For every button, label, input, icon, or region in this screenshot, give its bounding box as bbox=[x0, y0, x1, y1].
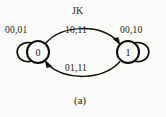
state-node-1[interactable]: 1 bbox=[117, 41, 139, 63]
transition-label-1-to-0: 01,11 bbox=[65, 64, 87, 74]
transition-label-0-to-1: 10,11 bbox=[65, 26, 87, 36]
self-loop-label-state-1: 00,10 bbox=[120, 26, 142, 36]
figure-caption: (a) bbox=[74, 96, 86, 107]
state-node-0[interactable]: 0 bbox=[27, 41, 49, 63]
self-loop-label-state-0: 00,01 bbox=[5, 26, 27, 36]
state-0-label: 0 bbox=[36, 47, 41, 58]
state-diagram-figure: 0 1 JK 00,01 00,10 10,11 01,11 (a) bbox=[0, 0, 166, 117]
state-1-label: 1 bbox=[126, 47, 131, 58]
diagram-heading-jk: JK bbox=[72, 6, 84, 16]
